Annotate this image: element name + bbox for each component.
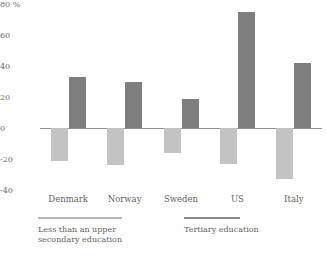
legend-item-tertiary-education: Tertiary education [184, 217, 304, 235]
legend-swatch-tertiary-education [184, 217, 240, 219]
legend-label-less-than-upper-secondary: Less than an upper secondary education [38, 225, 156, 245]
y-tick-label: -20 [0, 155, 36, 164]
y-tick-label: 80 % [0, 0, 36, 9]
bar-denmark-tertiary [69, 77, 86, 128]
bar-norway-less-than-upper-secondary [107, 128, 124, 165]
legend-label-tertiary-education: Tertiary education [184, 225, 304, 235]
category-label-denmark: Denmark [48, 194, 88, 204]
bar-sweden-tertiary [182, 99, 199, 128]
bar-norway-tertiary [125, 82, 142, 129]
category-label-us: US [231, 194, 244, 204]
y-tick-label: -40 [0, 186, 36, 195]
category-label-sweden: Sweden [164, 194, 198, 204]
legend-swatch-less-than-upper-secondary [38, 217, 122, 219]
category-label-norway: Norway [108, 194, 142, 204]
y-tick-label: 0 [0, 124, 36, 133]
chart-container: 80 % 60 40 20 0 -20 -40 DenmarkNorwaySwe… [0, 0, 326, 258]
bar-italy-less-than-upper-secondary [276, 128, 293, 179]
legend-item-less-than-upper-secondary: Less than an upper secondary education [38, 217, 156, 245]
bar-italy-tertiary [294, 63, 311, 128]
category-label-italy: Italy [284, 194, 303, 204]
plot-area [40, 4, 322, 190]
bar-sweden-less-than-upper-secondary [164, 128, 181, 153]
bar-denmark-less-than-upper-secondary [51, 128, 68, 161]
y-tick-label: 40 [0, 62, 36, 71]
bar-us-tertiary [238, 12, 255, 128]
bar-us-less-than-upper-secondary [220, 128, 237, 164]
y-tick-label: 20 [0, 93, 36, 102]
y-tick-label: 60 [0, 31, 36, 40]
